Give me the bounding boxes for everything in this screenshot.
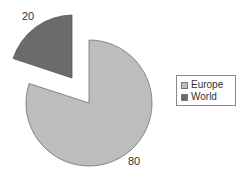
legend-swatch-europe: [181, 82, 188, 89]
legend-item-world: World: [181, 91, 235, 103]
data-label-world: 20: [22, 10, 34, 22]
data-label-europe: 80: [128, 155, 140, 167]
legend-label-world: World: [191, 91, 217, 103]
chart-legend: Europe World: [176, 75, 236, 106]
legend-swatch-world: [181, 94, 188, 101]
legend-label-europe: Europe: [191, 79, 223, 91]
pie-slice-world: [13, 15, 72, 78]
legend-item-europe: Europe: [181, 79, 235, 91]
